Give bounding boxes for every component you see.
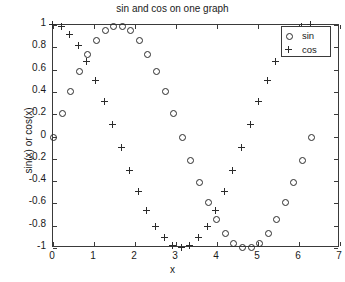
x-tick-top xyxy=(258,25,259,29)
y-tick-label: -0.6 xyxy=(14,195,46,206)
y-tick-right xyxy=(334,226,338,227)
data-markers-layer xyxy=(53,25,340,248)
x-tick xyxy=(135,242,136,246)
circle-marker-icon xyxy=(67,88,74,95)
circle-marker-icon xyxy=(273,216,280,223)
circle-marker-icon xyxy=(299,157,306,164)
y-tick-label: -0.4 xyxy=(14,173,46,184)
y-tick-label: -0.2 xyxy=(14,151,46,162)
plus-marker-icon xyxy=(221,188,228,195)
plus-marker-icon xyxy=(135,188,142,195)
y-tick-label: 0.2 xyxy=(14,106,46,117)
x-axis-title: x xyxy=(0,264,345,275)
x-tick-label: 6 xyxy=(285,250,311,261)
y-tick xyxy=(53,203,57,204)
circle-marker-icon xyxy=(59,110,66,117)
plus-marker-icon xyxy=(238,144,245,151)
circle-marker-icon xyxy=(290,179,297,186)
plus-marker-icon xyxy=(285,46,292,53)
plus-marker-icon xyxy=(255,98,262,105)
y-tick-label: 1 xyxy=(14,17,46,28)
plus-marker-icon xyxy=(272,58,279,65)
plus-marker-icon xyxy=(229,167,236,174)
x-tick-label: 4 xyxy=(203,250,229,261)
x-tick-top xyxy=(217,25,218,29)
circle-marker-icon xyxy=(308,134,315,141)
x-tick-top xyxy=(94,25,95,29)
y-tick-right xyxy=(334,47,338,48)
x-tick xyxy=(299,242,300,246)
plus-marker-icon xyxy=(264,77,271,84)
x-tick xyxy=(217,242,218,246)
circle-marker-icon xyxy=(76,68,83,75)
plus-marker-icon xyxy=(186,242,193,249)
y-tick xyxy=(53,92,57,93)
plus-marker-icon xyxy=(83,58,90,65)
plus-marker-icon xyxy=(66,31,73,38)
plus-marker-icon xyxy=(118,144,125,151)
x-tick-top xyxy=(340,25,341,29)
x-tick xyxy=(176,242,177,246)
circle-marker-icon xyxy=(102,27,109,34)
circle-marker-icon xyxy=(230,240,237,247)
plus-marker-icon xyxy=(161,234,168,241)
circle-marker-icon xyxy=(136,37,143,44)
circle-marker-icon xyxy=(222,230,229,237)
x-tick-top xyxy=(135,25,136,29)
y-tick-right xyxy=(334,137,338,138)
plus-marker-icon xyxy=(195,234,202,241)
circle-marker-icon xyxy=(196,179,203,186)
circle-marker-icon xyxy=(162,88,169,95)
y-tick xyxy=(53,248,57,249)
x-tick xyxy=(53,242,54,246)
circle-marker-icon xyxy=(213,216,220,223)
x-tick-top xyxy=(176,25,177,29)
circle-marker-icon xyxy=(144,51,151,58)
legend-label: sin xyxy=(302,29,314,43)
y-tick-label: -1 xyxy=(14,240,46,251)
y-tick-label: 0.8 xyxy=(14,39,46,50)
legend-entry: sin xyxy=(282,29,332,43)
circle-marker-icon xyxy=(119,23,126,30)
circle-marker-icon xyxy=(282,199,289,206)
y-tick xyxy=(53,226,57,227)
plus-marker-icon xyxy=(75,42,82,49)
circle-marker-icon xyxy=(93,37,100,44)
circle-marker-icon xyxy=(286,33,293,40)
circle-marker-icon xyxy=(127,27,134,34)
legend-label: cos xyxy=(302,43,317,57)
y-tick-right xyxy=(334,248,338,249)
y-tick-right xyxy=(334,92,338,93)
circle-marker-icon xyxy=(153,68,160,75)
plus-marker-icon xyxy=(212,207,219,214)
plot-area xyxy=(52,24,339,247)
plus-marker-icon xyxy=(109,121,116,128)
circle-marker-icon xyxy=(265,230,272,237)
plus-marker-icon xyxy=(143,207,150,214)
chart-title: sin and cos on one graph xyxy=(0,3,345,14)
y-tick-right xyxy=(334,159,338,160)
x-tick xyxy=(258,242,259,246)
circle-marker-icon xyxy=(170,110,177,117)
plus-marker-icon xyxy=(204,223,211,230)
plus-marker-icon xyxy=(58,23,65,30)
x-tick-label: 0 xyxy=(39,250,65,261)
plus-marker-icon xyxy=(247,121,254,128)
x-tick-label: 3 xyxy=(162,250,188,261)
y-tick-label: 0.4 xyxy=(14,84,46,95)
x-tick-label: 2 xyxy=(121,250,147,261)
plus-marker-icon xyxy=(126,167,133,174)
y-tick-right xyxy=(334,25,338,26)
circle-marker-icon xyxy=(110,23,117,30)
x-tick xyxy=(340,242,341,246)
y-tick xyxy=(53,137,57,138)
x-tick-label: 5 xyxy=(244,250,270,261)
y-tick-label: 0 xyxy=(14,129,46,140)
circle-marker-icon xyxy=(205,199,212,206)
y-tick-right xyxy=(334,203,338,204)
y-tick-label: 0.6 xyxy=(14,62,46,73)
y-tick-right xyxy=(334,70,338,71)
plus-marker-icon xyxy=(92,77,99,84)
legend: sincos xyxy=(281,26,331,57)
x-tick-label: 1 xyxy=(80,250,106,261)
